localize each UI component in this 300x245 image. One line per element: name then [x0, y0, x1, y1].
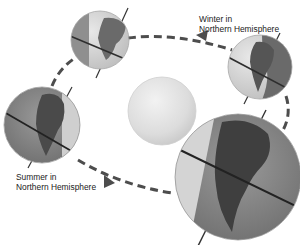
- summer-label-line2: Northern Hemisphere: [16, 182, 96, 192]
- winter-label-line1: Winter in: [199, 14, 279, 24]
- diagram-canvas: [0, 0, 300, 245]
- summer-label: Summer in Northern Hemisphere: [16, 172, 96, 192]
- summer-label-line1: Summer in: [16, 172, 96, 182]
- winter-label: Winter in Northern Hemisphere: [199, 14, 279, 34]
- seasons-diagram: Winter in Northern Hemisphere Summer in …: [0, 0, 300, 245]
- earth-front: [175, 110, 300, 245]
- earth-left: [4, 85, 84, 168]
- sun: [128, 77, 196, 145]
- winter-label-line2: Northern Hemisphere: [199, 24, 279, 34]
- earth-top: [70, 8, 132, 78]
- earth-right: [228, 33, 294, 104]
